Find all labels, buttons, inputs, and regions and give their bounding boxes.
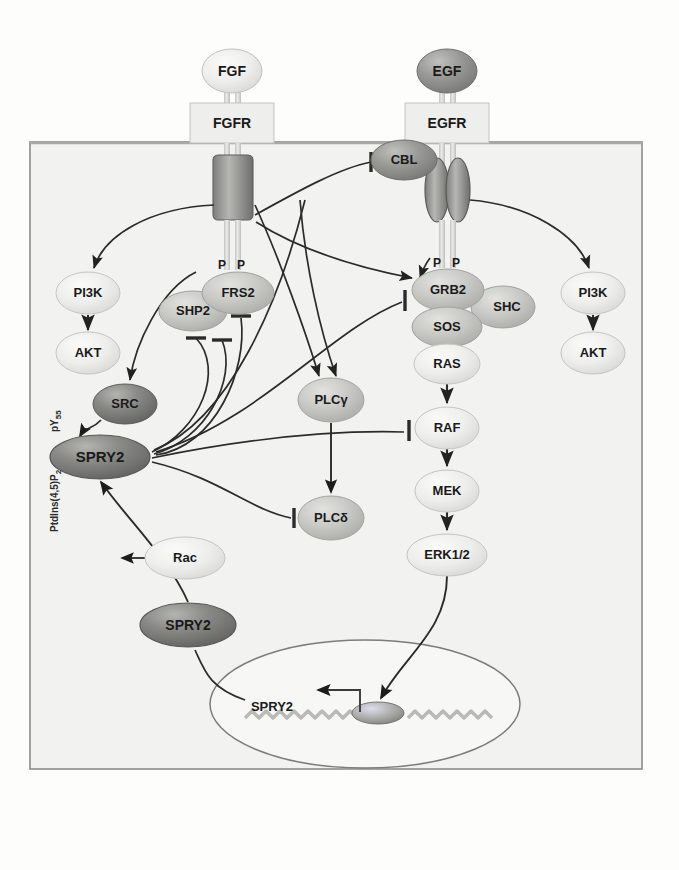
node-src-label: SRC xyxy=(111,396,139,411)
node-sos-label: SOS xyxy=(433,319,461,334)
node-rac-label: Rac xyxy=(173,550,197,565)
ptdins-sub: 2 xyxy=(54,469,63,474)
node-raf-label: RAF xyxy=(434,420,461,435)
node-plcd[interactable]: PLCδ xyxy=(298,496,364,540)
node-plcd-label: PLCδ xyxy=(314,510,348,525)
phospho-fgfr-1: P xyxy=(218,258,226,272)
node-frs2[interactable]: FRS2 xyxy=(202,272,274,314)
node-erk-label: ERK1/2 xyxy=(424,547,470,562)
pathway-diagram: SPRY2 xyxy=(0,0,679,870)
node-plcg-label: PLCγ xyxy=(314,392,348,407)
egfr-transmembrane-2 xyxy=(446,158,470,222)
receptor-fgfr-label: FGFR xyxy=(213,115,251,131)
node-frs2-label: FRS2 xyxy=(221,285,254,300)
node-pi3k-right-label: PI3K xyxy=(579,285,609,300)
node-akt-right[interactable]: AKT xyxy=(561,332,625,374)
node-ras-label: RAS xyxy=(433,356,461,371)
ligand-fgf[interactable]: FGF xyxy=(202,49,262,93)
node-mek-label: MEK xyxy=(433,483,463,498)
ptdins-base: PtdIns(4,5)P xyxy=(49,474,60,532)
node-shp2-label: SHP2 xyxy=(176,303,210,318)
node-ras[interactable]: RAS xyxy=(414,344,480,384)
node-grb2-label: GRB2 xyxy=(430,282,466,297)
nucleus: SPRY2 xyxy=(210,640,520,768)
node-grb2[interactable]: GRB2 xyxy=(412,269,484,311)
node-cbl[interactable]: CBL xyxy=(371,140,437,180)
node-cbl-label: CBL xyxy=(391,152,418,167)
node-pi3k-left[interactable]: PI3K xyxy=(56,272,120,314)
phospho-egfr-1: P xyxy=(433,256,441,270)
node-src[interactable]: SRC xyxy=(93,384,157,424)
nucleus-gene-label: SPRY2 xyxy=(251,699,293,714)
node-raf[interactable]: RAF xyxy=(415,407,479,449)
node-akt-left-label: AKT xyxy=(75,345,102,360)
node-akt-left[interactable]: AKT xyxy=(56,332,120,374)
node-sos[interactable]: SOS xyxy=(412,307,482,347)
node-spry2-membrane-label: SPRY2 xyxy=(76,448,125,465)
node-spry2-cytosol-label: SPRY2 xyxy=(165,617,211,633)
node-shc-label: SHC xyxy=(493,299,521,314)
phospho-fgfr-2: P xyxy=(237,258,245,272)
node-spry2-cytosol[interactable]: SPRY2 xyxy=(140,603,236,647)
receptor-egfr-label: EGFR xyxy=(428,115,467,131)
node-akt-right-label: AKT xyxy=(580,345,607,360)
ligand-egf[interactable]: EGF xyxy=(417,49,477,93)
node-mek[interactable]: MEK xyxy=(415,470,479,512)
node-spry2-membrane[interactable]: SPRY2 xyxy=(50,435,150,479)
phospho-egfr-2: P xyxy=(452,256,460,270)
py55-sub: 55 xyxy=(54,410,63,419)
node-rac[interactable]: Rac xyxy=(145,537,225,579)
node-pi3k-left-label: PI3K xyxy=(74,285,104,300)
node-erk[interactable]: ERK1/2 xyxy=(407,534,487,576)
ligand-egf-label: EGF xyxy=(433,63,462,79)
ligand-fgf-label: FGF xyxy=(218,63,246,79)
fgfr-transmembrane xyxy=(213,155,253,220)
py55-base: pY xyxy=(49,419,60,432)
node-pi3k-right[interactable]: PI3K xyxy=(561,272,625,314)
node-plcg[interactable]: PLCγ xyxy=(298,378,364,422)
